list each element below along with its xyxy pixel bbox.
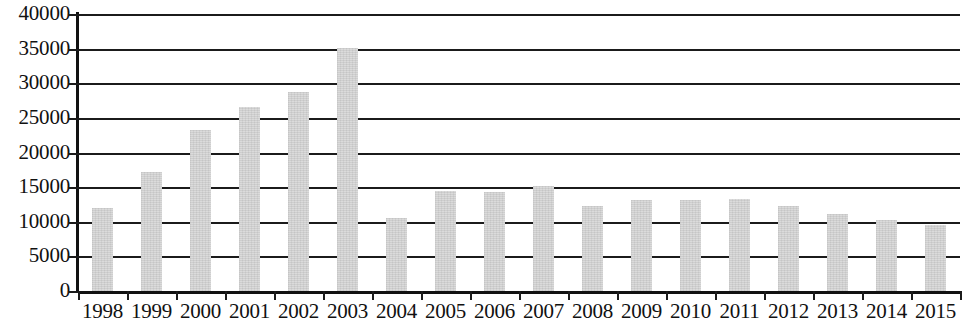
bar bbox=[582, 206, 603, 291]
x-axis-tick bbox=[862, 291, 864, 300]
bar bbox=[288, 92, 309, 291]
bar bbox=[533, 186, 554, 291]
y-axis-label: 40000 bbox=[0, 3, 70, 24]
bar bbox=[680, 200, 701, 291]
x-axis-tick bbox=[225, 291, 227, 300]
x-axis-tick bbox=[176, 291, 178, 300]
x-axis-tick bbox=[813, 291, 815, 300]
plot-area bbox=[78, 14, 960, 291]
y-axis-label: 5000 bbox=[0, 245, 70, 266]
bar bbox=[337, 48, 358, 291]
x-axis-label: 2012 bbox=[764, 300, 813, 319]
y-axis-label: 15000 bbox=[0, 176, 70, 197]
x-axis-label: 2011 bbox=[715, 300, 764, 319]
x-axis-tick bbox=[421, 291, 423, 300]
x-axis-tick bbox=[617, 291, 619, 300]
x-axis-label: 2005 bbox=[421, 300, 470, 319]
x-axis-label: 2004 bbox=[372, 300, 421, 319]
x-axis-label: 2007 bbox=[519, 300, 568, 319]
bar bbox=[778, 206, 799, 291]
y-axis-tick bbox=[68, 153, 78, 155]
bar bbox=[876, 220, 897, 291]
x-axis-tick bbox=[764, 291, 766, 300]
x-axis-tick bbox=[715, 291, 717, 300]
x-axis-tick bbox=[323, 291, 325, 300]
x-axis-label: 1998 bbox=[78, 300, 127, 319]
y-axis-tick bbox=[68, 291, 78, 293]
x-axis-tick-labels: 1998199920002001200220032004200520062007… bbox=[78, 291, 960, 319]
y-axis-tick bbox=[68, 49, 78, 51]
x-axis-label: 2010 bbox=[666, 300, 715, 319]
x-axis-label: 2001 bbox=[225, 300, 274, 319]
x-axis-tick bbox=[519, 291, 521, 300]
bar bbox=[729, 199, 750, 291]
bar bbox=[827, 214, 848, 291]
y-axis-tick bbox=[68, 222, 78, 224]
y-axis-tick bbox=[68, 118, 78, 120]
x-axis-label: 2000 bbox=[176, 300, 225, 319]
x-axis-tick bbox=[372, 291, 374, 300]
y-axis-tick bbox=[68, 83, 78, 85]
bar bbox=[141, 172, 162, 291]
x-axis-tick bbox=[274, 291, 276, 300]
bar bbox=[92, 208, 113, 291]
y-axis-label: 35000 bbox=[0, 38, 70, 59]
bar bbox=[435, 191, 456, 291]
y-axis-label: 30000 bbox=[0, 72, 70, 93]
x-axis-label: 1999 bbox=[127, 300, 176, 319]
x-axis-label: 2002 bbox=[274, 300, 323, 319]
x-axis-label: 2015 bbox=[911, 300, 960, 319]
x-axis-tick bbox=[127, 291, 129, 300]
bar bbox=[484, 192, 505, 291]
x-axis-tick bbox=[568, 291, 570, 300]
y-axis-label: 20000 bbox=[0, 142, 70, 163]
x-axis-label: 2013 bbox=[813, 300, 862, 319]
x-axis-label: 2003 bbox=[323, 300, 372, 319]
x-axis-label: 2009 bbox=[617, 300, 666, 319]
y-axis-label: 10000 bbox=[0, 211, 70, 232]
bar bbox=[239, 107, 260, 291]
x-axis-tick bbox=[911, 291, 913, 300]
y-axis-tick bbox=[68, 14, 78, 16]
bar bbox=[190, 130, 211, 291]
x-axis-tick bbox=[470, 291, 472, 300]
x-axis-tick bbox=[666, 291, 668, 300]
x-axis-tick bbox=[78, 291, 80, 300]
y-axis-tick bbox=[68, 256, 78, 258]
bar-series bbox=[78, 14, 960, 291]
y-axis-tick-labels: 4000035000300002500020000150001000050000 bbox=[0, 0, 70, 319]
x-axis-label: 2014 bbox=[862, 300, 911, 319]
bar bbox=[925, 225, 946, 291]
bar bbox=[386, 218, 407, 291]
y-axis-label: 0 bbox=[0, 280, 70, 301]
x-axis-label: 2008 bbox=[568, 300, 617, 319]
bar bbox=[631, 200, 652, 291]
y-axis-tick bbox=[68, 187, 78, 189]
y-axis-label: 25000 bbox=[0, 107, 70, 128]
x-axis-label: 2006 bbox=[470, 300, 519, 319]
